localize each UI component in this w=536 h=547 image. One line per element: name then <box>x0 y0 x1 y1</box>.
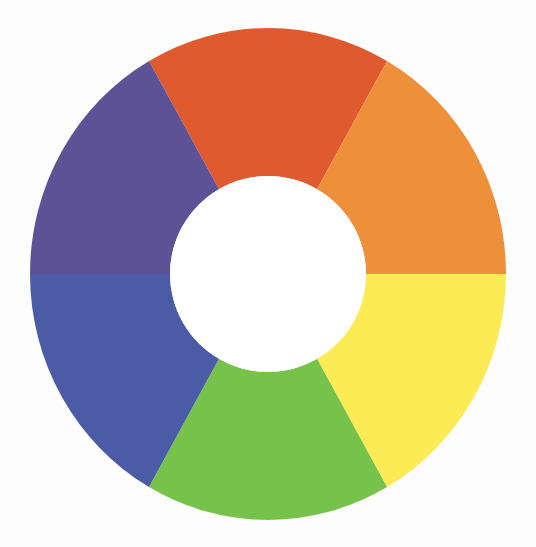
color-wheel-canvas: Color wheel <box>0 0 536 547</box>
color-wheel <box>0 0 536 547</box>
center-hole <box>170 176 366 372</box>
